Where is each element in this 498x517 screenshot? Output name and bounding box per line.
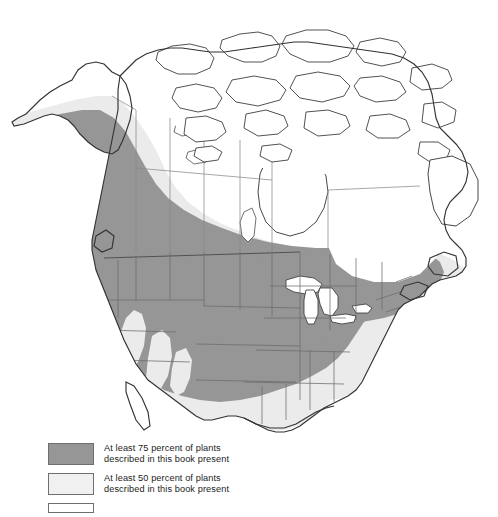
legend-item-75-percent: At least 75 percent of plants described … <box>48 443 308 466</box>
legend-swatch-clipped <box>48 503 94 513</box>
legend-item-50-percent: At least 50 percent of plants described … <box>48 473 308 496</box>
map-legend: At least 75 percent of plants described … <box>48 443 308 517</box>
legend-label-75-percent: At least 75 percent of plants described … <box>104 443 229 466</box>
legend-swatch-75-percent <box>48 443 94 465</box>
legend-swatch-50-percent <box>48 473 94 495</box>
quebec-labrador-unshaded <box>326 176 444 282</box>
legend-label-50-percent: At least 50 percent of plants described … <box>104 473 229 496</box>
legend-item-clipped <box>48 503 308 513</box>
